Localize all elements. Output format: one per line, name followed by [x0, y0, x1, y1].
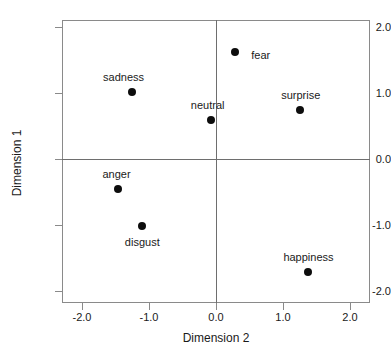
- x-tick-label: 1.0: [275, 311, 290, 323]
- y-tick-mark: [55, 27, 62, 28]
- x-tick-label: -2.0: [73, 311, 92, 323]
- x-tick-mark: [350, 303, 351, 310]
- x-tick-label: 2.0: [342, 311, 357, 323]
- vertical-zero-axis-line: [216, 20, 217, 303]
- x-tick-label: 0.0: [208, 311, 223, 323]
- data-point-marker: [231, 48, 239, 56]
- data-point-marker: [138, 222, 146, 230]
- data-point-marker: [296, 106, 304, 114]
- data-point-label: neutral: [191, 99, 225, 111]
- data-point-marker: [207, 116, 215, 124]
- x-tick-mark: [149, 303, 150, 310]
- data-point-label: sadness: [103, 71, 144, 83]
- y-tick-mark: [55, 93, 62, 94]
- y-axis-title: Dimension 1: [10, 130, 24, 197]
- y-tick-mark: [55, 291, 62, 292]
- data-point-label: fear: [251, 49, 270, 61]
- x-tick-mark: [82, 303, 83, 310]
- y-tick-label: 1.0: [361, 87, 391, 99]
- x-tick-mark: [216, 303, 217, 310]
- data-point-marker: [128, 88, 136, 96]
- y-tick-label: 2.0: [361, 21, 391, 33]
- horizontal-zero-axis-line: [62, 159, 370, 160]
- data-point-label: disgust: [125, 236, 160, 248]
- x-tick-mark: [283, 303, 284, 310]
- data-point-label: surprise: [281, 89, 320, 101]
- y-tick-label: -1.0: [361, 219, 391, 231]
- y-tick-label: 0.0: [361, 153, 391, 165]
- data-point-label: anger: [102, 168, 130, 180]
- scatter-plot-figure: 2.01.00.0-1.0-2.0 -2.0-1.00.01.02.0 fear…: [0, 0, 391, 355]
- data-point-marker: [114, 185, 122, 193]
- y-tick-label: -2.0: [361, 285, 391, 297]
- y-tick-mark: [55, 159, 62, 160]
- data-point-marker: [304, 268, 312, 276]
- x-axis-title: Dimension 2: [183, 331, 250, 345]
- data-point-label: happiness: [283, 251, 333, 263]
- x-tick-label: -1.0: [140, 311, 159, 323]
- y-tick-mark: [55, 225, 62, 226]
